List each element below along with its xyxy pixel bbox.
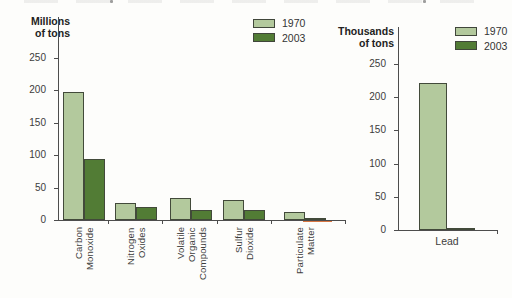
legend-swatch-1970 [253, 19, 275, 28]
cropped-text-artifact [24, 0, 488, 3]
legend-label-1970: 1970 [484, 26, 507, 36]
legend-label-1970: 1970 [282, 18, 305, 28]
legend-swatch-1970 [455, 27, 477, 36]
bar-1970-group0 [419, 83, 447, 230]
bar-2003-group2 [191, 210, 212, 220]
scan-speck [423, 0, 426, 3]
y-tick-label: 0 [346, 225, 386, 235]
unit-label-line1: Millions [6, 15, 70, 27]
y-tick-label: 0 [6, 215, 46, 225]
right-chart-unit-label: Thousands of tons [330, 25, 394, 49]
legend-swatch-2003 [253, 33, 275, 42]
unit-label-line2: of tons [330, 37, 394, 49]
legend-swatch-2003 [455, 41, 477, 50]
emissions-figure: Millions of tons 1970 2003 Thousands of … [0, 0, 512, 298]
y-tick [54, 188, 58, 189]
bar-1970-group0 [63, 92, 84, 220]
y-tick-label: 100 [6, 150, 46, 160]
x-axis-line [58, 220, 345, 221]
y-tick-label: 250 [6, 53, 46, 63]
bar-2003-group3 [244, 210, 265, 220]
left-chart-legend: 1970 2003 [253, 18, 305, 47]
y-tick [394, 97, 398, 98]
unit-label-line2: of tons [6, 27, 70, 39]
scan-speck [110, 0, 113, 3]
bar-1970-group4 [284, 212, 305, 220]
category-label: Lead [412, 235, 482, 247]
bar-1970-group2 [170, 198, 191, 220]
bar-2003-group1 [136, 207, 157, 220]
y-axis-line [398, 27, 399, 231]
legend-label-2003: 2003 [484, 41, 507, 51]
y-tick-label: 50 [346, 192, 386, 202]
legend-item-1970: 1970 [253, 18, 305, 28]
legend-item-1970: 1970 [455, 26, 507, 36]
category-label: Particulate Matter [294, 227, 316, 295]
y-tick-label: 250 [346, 59, 386, 69]
category-label: Carbon Monoxide [73, 227, 95, 295]
y-tick-label: 50 [6, 183, 46, 193]
legend-item-2003: 2003 [455, 41, 507, 51]
x-tick [271, 220, 272, 224]
y-tick [54, 220, 58, 221]
x-tick [217, 220, 218, 224]
y-tick-label: 150 [346, 125, 386, 135]
x-tick [108, 220, 109, 224]
bar-1970-group1 [115, 203, 136, 220]
y-tick [54, 58, 58, 59]
y-tick-label: 200 [346, 92, 386, 102]
x-tick [497, 230, 498, 234]
bar-2003-group0 [84, 159, 105, 220]
y-tick [394, 164, 398, 165]
category-label: Sulfur Dioxide [233, 227, 255, 295]
y-tick [394, 197, 398, 198]
category-label: Nitrogen Oxides [125, 227, 147, 295]
right-chart-legend: 1970 2003 [455, 26, 507, 55]
y-tick [54, 90, 58, 91]
x-tick [345, 220, 346, 224]
y-tick-label: 200 [6, 85, 46, 95]
left-chart-unit-label: Millions of tons [6, 15, 70, 39]
y-axis-line [58, 17, 59, 221]
y-tick [394, 64, 398, 65]
legend-item-2003: 2003 [253, 33, 305, 43]
y-tick [54, 123, 58, 124]
bar-1970-group3 [223, 200, 244, 220]
y-tick [394, 230, 398, 231]
y-tick-label: 100 [346, 159, 386, 169]
x-tick [162, 220, 163, 224]
unit-label-line1: Thousands [330, 25, 394, 37]
x-axis-line [398, 230, 497, 231]
y-tick-label: 150 [6, 118, 46, 128]
y-tick [394, 130, 398, 131]
category-label: Volatile Organic Compounds [175, 227, 208, 295]
y-tick [54, 155, 58, 156]
legend-label-2003: 2003 [282, 33, 305, 43]
